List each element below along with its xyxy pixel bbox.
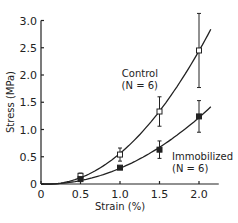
y-tick-label: 0.5	[20, 151, 38, 164]
y-tick-label: 1.0	[20, 124, 38, 137]
control-n-label: (N = 6)	[122, 80, 158, 91]
control-label: Control	[122, 68, 158, 79]
y-tick-label: 2.0	[20, 69, 38, 82]
x-tick-label: 0.5	[72, 188, 90, 201]
open-square-marker	[197, 48, 202, 53]
immobilized-n-label: (N = 6)	[172, 163, 208, 174]
filled-square-marker	[78, 177, 83, 182]
x-tick-label: 0	[38, 188, 45, 201]
x-tick-label: 1.5	[151, 188, 169, 201]
x-axis-label: Strain (%)	[95, 201, 145, 212]
y-tick-label: 1.5	[20, 96, 38, 109]
y-axis-label: Stress (MPa)	[5, 71, 16, 133]
open-square-marker	[118, 152, 123, 157]
y-tick-label: 0	[30, 178, 37, 191]
stress-strain-chart: 00.51.01.52.02.53.000.51.01.52.0 Stress …	[0, 0, 238, 223]
filled-square-marker	[197, 114, 202, 119]
x-tick-label: 2.0	[190, 188, 208, 201]
open-square-marker	[157, 109, 162, 114]
filled-square-marker	[118, 165, 123, 170]
y-tick-label: 3.0	[20, 15, 38, 28]
y-tick-label: 2.5	[20, 42, 38, 55]
filled-square-marker	[157, 147, 162, 152]
x-tick-label: 1.0	[111, 188, 129, 201]
immobilized-label: Immobilized	[172, 151, 233, 162]
